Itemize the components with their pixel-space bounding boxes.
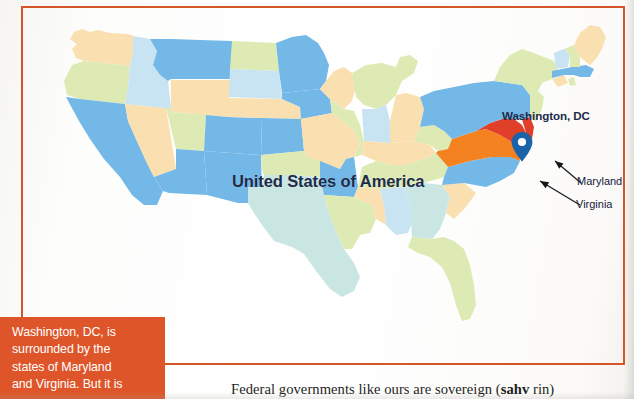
callout-line-3: states of Maryland — [12, 359, 154, 376]
body-paragraph: Federal governments like ours are sovere… — [231, 381, 554, 398]
body-text-prefix: Federal governments like ours are sovere… — [231, 381, 501, 397]
scan-edge-shadow-right — [624, 0, 634, 399]
textbook-page-scan: United States of America Washington, DC … — [0, 0, 634, 399]
callout-line-2: surrounded by the — [12, 341, 154, 358]
body-text-suffix: rin) — [529, 381, 554, 397]
sidebar-callout-box: Washington, DC, is surrounded by the sta… — [0, 317, 165, 399]
callout-line-1: Washington, DC, is — [12, 324, 154, 341]
pronunciation-guide: sahv — [501, 381, 530, 397]
figure-border-frame — [21, 6, 625, 365]
callout-line-4: and Virginia. But it is — [12, 376, 154, 393]
